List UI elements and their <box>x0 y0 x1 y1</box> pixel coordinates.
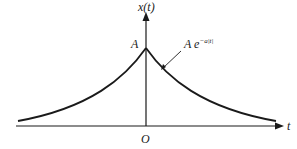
leader-line <box>163 51 181 68</box>
curve-left <box>18 48 146 121</box>
origin-label: O <box>141 133 150 145</box>
curve-right <box>146 48 276 121</box>
curve-label: A e−a|t| <box>184 38 213 50</box>
t-axis-arrowhead <box>275 123 284 130</box>
signal-diagram: x(t) A A e−a|t| O t <box>0 0 297 149</box>
curve-label-base: A e <box>184 37 199 51</box>
peak-label: A <box>131 38 138 50</box>
curve-label-exponent: −a|t| <box>199 37 213 45</box>
y-axis-label: x(t) <box>138 1 155 13</box>
x-axis-label: t <box>287 120 290 132</box>
diagram-graphics <box>0 0 297 149</box>
